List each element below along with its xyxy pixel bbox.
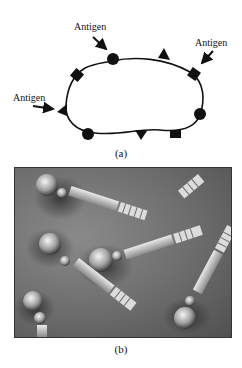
antigen-triangle-icon <box>158 48 170 60</box>
antigen-label-top: Antigen <box>74 21 106 32</box>
caption-a: (a) <box>0 147 242 159</box>
cell-membrane <box>66 59 203 134</box>
antigen-triangle-icon <box>57 104 67 116</box>
antigen-square-icon <box>170 130 181 138</box>
molecule <box>34 174 148 220</box>
arrow-icon <box>33 106 53 109</box>
molecule <box>178 174 204 198</box>
antigen-circle-icon <box>194 108 206 120</box>
arrow-icon <box>93 37 106 49</box>
antigen-circle-icon <box>82 128 94 140</box>
arrow-icon <box>202 51 213 63</box>
antigen-circle-icon <box>107 53 119 65</box>
panel-b-molecule-photo <box>14 167 232 338</box>
panel-a-cell-diagram: Antigen Antigen Antigen <box>0 0 242 165</box>
antigen-triangle-icon <box>135 130 147 140</box>
antigen-label-left: Antigen <box>13 92 45 103</box>
antigen-label-right: Antigen <box>195 37 227 48</box>
molecule-render-svg <box>15 168 231 337</box>
cell-diagram-svg <box>0 0 242 165</box>
caption-b: (b) <box>0 343 242 355</box>
molecule <box>15 290 55 337</box>
